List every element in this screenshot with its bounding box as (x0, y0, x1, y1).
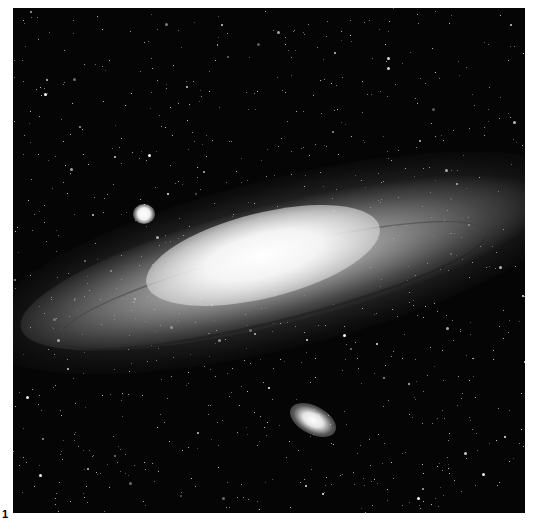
figure-label: 1 (2, 508, 8, 520)
satellite-galaxy-m32 (133, 204, 155, 224)
galaxy-photo (13, 8, 525, 513)
